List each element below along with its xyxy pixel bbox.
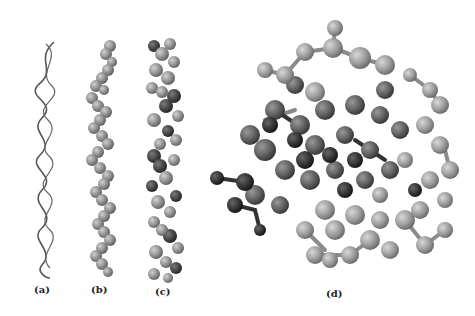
panel-a-ribbon-helix [28, 40, 64, 280]
panel-a-label: (a) [34, 284, 50, 295]
panel-b-space-filling-strand [80, 38, 124, 283]
ball-and-stick-graphic [205, 20, 470, 280]
panel-d-ball-and-stick [205, 20, 470, 280]
panel-c-space-filling-double-helix [140, 36, 190, 286]
ribbon-helix-graphic [28, 40, 64, 280]
panel-b-label: (b) [91, 284, 107, 295]
panel-c-label: (c) [155, 286, 171, 297]
panel-d-label: (d) [326, 288, 342, 299]
space-filling-strand-graphic [80, 38, 124, 283]
double-helix-graphic [140, 36, 190, 286]
